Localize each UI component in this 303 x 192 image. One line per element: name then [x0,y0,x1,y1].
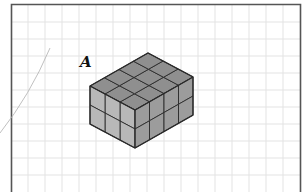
grid-paper-figure [0,0,303,192]
cuboid [90,53,193,148]
figure-label: A [80,55,92,70]
